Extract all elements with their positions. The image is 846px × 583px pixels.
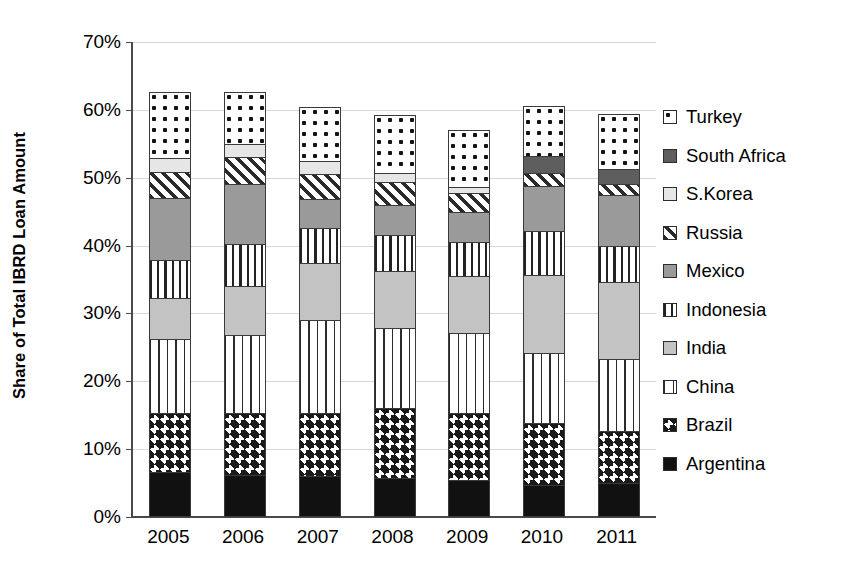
- bar-segment-brazil: [299, 413, 341, 476]
- bar-segment-mexico: [598, 195, 640, 245]
- bar-segment-south-africa: [523, 156, 565, 173]
- bar-segment-china: [224, 335, 266, 413]
- legend-label: South Africa: [686, 147, 786, 166]
- bar-segment-indonesia: [598, 246, 640, 283]
- y-axis-tick-label: 10%: [83, 438, 121, 460]
- bar-segment-china: [149, 339, 191, 414]
- bar-segment-argentina: [374, 478, 416, 517]
- y-axis-tick: [126, 178, 133, 179]
- bar-segment-indonesia: [299, 228, 341, 263]
- legend: TurkeySouth AfricaS.KoreaRussiaMexicoInd…: [663, 98, 843, 483]
- y-axis-tick-label: 40%: [83, 235, 121, 257]
- y-axis-tick-label: 50%: [83, 167, 121, 189]
- y-axis-tick-label: 0%: [94, 506, 121, 528]
- legend-swatch-icon: [663, 149, 677, 163]
- bar-segment-china: [523, 353, 565, 423]
- bar-segment-china: [374, 328, 416, 408]
- bar-column: [448, 42, 490, 517]
- legend-item-indonesia[interactable]: Indonesia: [663, 291, 843, 330]
- bar-segment-russia: [224, 157, 266, 183]
- bar-segment-india: [299, 263, 341, 321]
- bar-segment-india: [374, 271, 416, 328]
- bar-segment-mexico: [448, 212, 490, 242]
- bar-segment-indonesia: [224, 244, 266, 286]
- bar-segment-russia: [374, 182, 416, 205]
- bar-segment-india: [149, 298, 191, 339]
- y-axis-tick: [126, 246, 133, 247]
- bar-segment-argentina: [149, 472, 191, 517]
- bar-segment-mexico: [149, 198, 191, 260]
- bar-segment-brazil: [374, 408, 416, 479]
- plot-area: 0%10%20%30%40%50%60%70%: [131, 42, 656, 517]
- legend-label: Argentina: [686, 455, 765, 474]
- x-axis-tick-label: 2010: [521, 526, 563, 548]
- bar-segment-india: [224, 286, 266, 336]
- legend-swatch-icon: [663, 457, 677, 471]
- bar-segment-indonesia: [149, 260, 191, 298]
- bar-series-group: [133, 42, 656, 517]
- bar-segment-russia: [149, 172, 191, 198]
- bar-segment-turkey: [523, 106, 565, 156]
- chart-canvas: Share of Total IBRD Loan Amount 0%10%20%…: [0, 0, 846, 583]
- legend-label: China: [686, 378, 734, 397]
- legend-label: S.Korea: [686, 185, 753, 204]
- bar-segment-s-korea: [149, 158, 191, 172]
- legend-label: Russia: [686, 224, 743, 243]
- legend-label: Turkey: [686, 108, 742, 127]
- y-axis-tick: [126, 313, 133, 314]
- legend-item-turkey[interactable]: Turkey: [663, 98, 843, 137]
- bar-segment-south-africa: [598, 169, 640, 184]
- bar-segment-china: [299, 320, 341, 412]
- bar-segment-russia: [598, 184, 640, 196]
- bar-segment-india: [598, 282, 640, 359]
- bar-column: [299, 42, 341, 517]
- legend-item-argentina[interactable]: Argentina: [663, 445, 843, 484]
- bar-segment-mexico: [299, 199, 341, 228]
- bar-segment-russia: [523, 173, 565, 186]
- y-axis-tick-label: 30%: [83, 302, 121, 324]
- bar-segment-turkey: [299, 107, 341, 161]
- legend-swatch-icon: [663, 110, 677, 124]
- bar-segment-brazil: [448, 413, 490, 480]
- x-axis-tick-label: 2009: [446, 526, 488, 548]
- bar-segment-mexico: [224, 184, 266, 244]
- bar-segment-s-korea: [224, 144, 266, 158]
- y-axis-tick-label: 70%: [83, 31, 121, 53]
- legend-label: Indonesia: [686, 301, 766, 320]
- bar-segment-argentina: [448, 480, 490, 517]
- y-axis-title-text: Share of Total IBRD Loan Amount: [11, 131, 30, 398]
- bar-segment-brazil: [149, 413, 191, 472]
- bar-segment-turkey: [598, 114, 640, 169]
- bar-column: [224, 42, 266, 517]
- bar-segment-s-korea: [448, 187, 490, 194]
- legend-item-mexico[interactable]: Mexico: [663, 252, 843, 291]
- bar-segment-russia: [299, 174, 341, 199]
- legend-swatch-icon: [663, 264, 677, 278]
- legend-item-south-africa[interactable]: South Africa: [663, 137, 843, 176]
- x-axis-tick-label: 2008: [371, 526, 413, 548]
- legend-swatch-icon: [663, 187, 677, 201]
- bar-segment-brazil: [598, 431, 640, 483]
- bar-segment-russia: [448, 193, 490, 212]
- legend-swatch-icon: [663, 226, 677, 240]
- bar-segment-china: [448, 333, 490, 412]
- y-axis-tick: [126, 381, 133, 382]
- legend-swatch-icon: [663, 303, 677, 317]
- legend-item-india[interactable]: India: [663, 329, 843, 368]
- bar-segment-argentina: [523, 485, 565, 517]
- bar-segment-turkey: [224, 92, 266, 144]
- y-axis-tick: [126, 110, 133, 111]
- y-axis-tick-label: 20%: [83, 370, 121, 392]
- legend-item-china[interactable]: China: [663, 368, 843, 407]
- legend-swatch-icon: [663, 380, 677, 394]
- legend-item-s-korea[interactable]: S.Korea: [663, 175, 843, 214]
- legend-item-brazil[interactable]: Brazil: [663, 406, 843, 445]
- bar-segment-s-korea: [299, 161, 341, 173]
- y-axis-tick: [126, 517, 133, 518]
- legend-label: Mexico: [686, 262, 745, 281]
- y-axis-tick: [126, 449, 133, 450]
- legend-item-russia[interactable]: Russia: [663, 214, 843, 253]
- bar-column: [149, 42, 191, 517]
- bar-segment-argentina: [224, 475, 266, 517]
- legend-swatch-icon: [663, 418, 677, 432]
